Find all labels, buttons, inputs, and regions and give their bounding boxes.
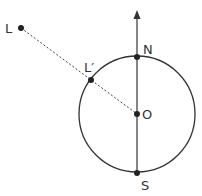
- point-O: [134, 111, 140, 117]
- diagram-canvas: L L′ N O S: [0, 0, 202, 196]
- label-O: O: [142, 107, 152, 122]
- dotted-line-L-to-O: [21, 28, 137, 114]
- point-N: [134, 54, 140, 60]
- point-L: [18, 25, 24, 31]
- arrow-head-icon: [134, 10, 141, 19]
- label-N: N: [143, 42, 153, 57]
- label-S: S: [141, 178, 149, 193]
- point-L-prime: [88, 77, 94, 83]
- point-S: [134, 170, 140, 176]
- label-L-prime: L′: [84, 60, 94, 75]
- label-L: L: [5, 21, 13, 36]
